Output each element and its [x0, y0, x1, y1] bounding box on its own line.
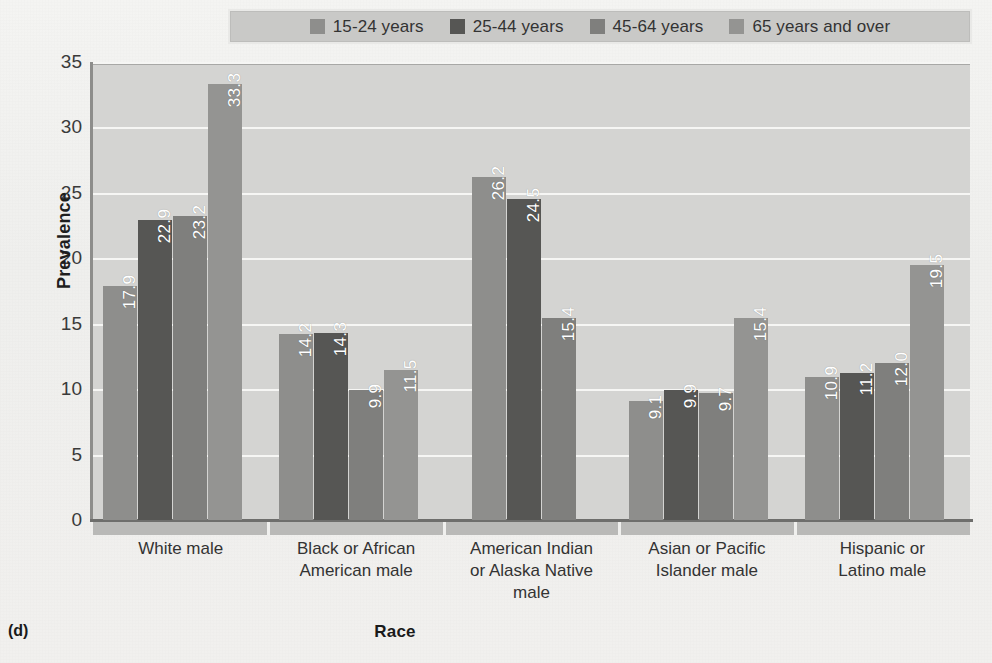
x-axis-category-label-line: American male	[268, 560, 443, 582]
bar: 19.5	[910, 265, 944, 520]
legend-item: 25-44 years	[450, 17, 564, 37]
legend-label: 65 years and over	[752, 17, 890, 37]
bar-value-label: 10.9	[822, 366, 842, 400]
x-axis-category-label-line: Asian or Pacific	[619, 538, 794, 560]
x-axis-category-label-line: American Indian	[444, 538, 619, 560]
legend-item: 65 years and over	[729, 17, 890, 37]
x-axis-category-label: Black or AfricanAmerican male	[268, 538, 443, 582]
bar-value-label: 11.2	[857, 363, 877, 396]
x-axis-group-separator	[267, 522, 270, 535]
x-axis-category-label-line: Hispanic or	[795, 538, 970, 560]
bar: 23.2	[173, 216, 207, 520]
y-axis-tick-label: 0	[42, 509, 82, 531]
bar: 15.4	[734, 318, 768, 520]
legend-label: 45-64 years	[613, 17, 704, 37]
bar: 9.7	[699, 393, 733, 520]
bar-value-label: 9.9	[366, 384, 386, 409]
bar: 10.9	[805, 377, 839, 520]
bar-value-label: 23.2	[190, 205, 210, 239]
x-axis-category-label: White male	[93, 538, 268, 560]
chart-legend: 15-24 years25-44 years45-64 years65 year…	[228, 9, 972, 44]
x-axis-category-label-line: White male	[93, 538, 268, 560]
y-axis-tick-label: 35	[42, 51, 82, 73]
y-axis-tick-label: 30	[42, 116, 82, 138]
x-axis-category-label: Asian or PacificIslander male	[619, 538, 794, 582]
x-axis-category-label: American Indianor Alaska Nativemale	[444, 538, 619, 604]
y-axis-tick-label: 10	[42, 378, 82, 400]
y-axis-ticks: 05101520253035	[36, 0, 82, 663]
y-axis-line	[90, 62, 93, 522]
legend-label: 15-24 years	[333, 17, 424, 37]
bar-value-label: 14.2	[296, 323, 316, 357]
bar-group: 17.922.923.233.3	[103, 62, 242, 520]
bar-value-label: 14.3	[331, 322, 351, 356]
x-axis-group-separator	[443, 522, 446, 535]
bar: 22.9	[138, 220, 172, 520]
bar-value-label: 15.4	[559, 307, 579, 341]
bar-value-label: 26.2	[489, 166, 509, 200]
x-axis-category-label: Hispanic orLatino male	[795, 538, 970, 582]
bar: 9.1	[629, 401, 663, 520]
x-axis-category-labels: White maleBlack or AfricanAmerican maleA…	[93, 538, 970, 608]
bar-group: 9.19.99.715.4	[629, 62, 768, 520]
bar: 9.9	[664, 390, 698, 520]
legend-item: 15-24 years	[310, 17, 424, 37]
x-axis-group-separator	[618, 522, 621, 535]
x-axis-category-label-line: Islander male	[619, 560, 794, 582]
x-axis-group-separator	[794, 522, 797, 535]
bar-group: 10.911.212.019.5	[805, 62, 944, 520]
bar: 11.2	[840, 373, 874, 520]
figure-page: 15-24 years25-44 years45-64 years65 year…	[0, 0, 992, 663]
legend-item: 45-64 years	[590, 17, 704, 37]
bar: 12.0	[875, 363, 909, 520]
bar-value-label: 33.3	[225, 73, 245, 107]
bar: 9.9	[349, 390, 383, 520]
bar-value-label: 12.0	[892, 352, 912, 386]
bar-value-label: 15.4	[751, 307, 771, 341]
x-axis-band	[93, 522, 970, 535]
legend-swatch-icon	[590, 19, 605, 34]
legend-swatch-icon	[729, 19, 744, 34]
bar: 26.2	[472, 177, 506, 520]
bar: 33.3	[208, 84, 242, 520]
bar-value-label: 24.5	[524, 188, 544, 222]
legend-swatch-icon	[450, 19, 465, 34]
legend-label: 25-44 years	[473, 17, 564, 37]
bar-value-label: 19.5	[927, 254, 947, 288]
bar: 15.4	[542, 318, 576, 520]
bar-group: 26.224.515.4	[472, 62, 576, 520]
bar: 24.5	[507, 199, 541, 520]
bar: 11.5	[384, 370, 418, 520]
x-axis-title: Race	[0, 622, 790, 642]
y-axis-tick-label: 15	[42, 313, 82, 335]
bar-value-label: 17.9	[120, 275, 140, 309]
bar-value-label: 22.9	[155, 209, 175, 243]
bar-group: 14.214.39.911.5	[279, 62, 418, 520]
bar: 14.3	[314, 333, 348, 520]
x-axis-category-label-line: Black or African	[268, 538, 443, 560]
bar-value-label: 11.5	[401, 359, 421, 392]
x-axis-category-label-line: or Alaska Native	[444, 560, 619, 582]
y-axis-tick-label: 5	[42, 444, 82, 466]
legend-swatch-icon	[310, 19, 325, 34]
y-axis-title: Prevalence	[54, 171, 75, 311]
bar: 14.2	[279, 334, 313, 520]
x-axis-category-label-line: Latino male	[795, 560, 970, 582]
x-axis-category-label-line: male	[444, 582, 619, 604]
bar-value-label: 9.9	[681, 384, 701, 409]
bar: 17.9	[103, 286, 137, 520]
bar-value-label: 9.7	[716, 387, 736, 412]
bar-value-label: 9.1	[646, 395, 666, 420]
